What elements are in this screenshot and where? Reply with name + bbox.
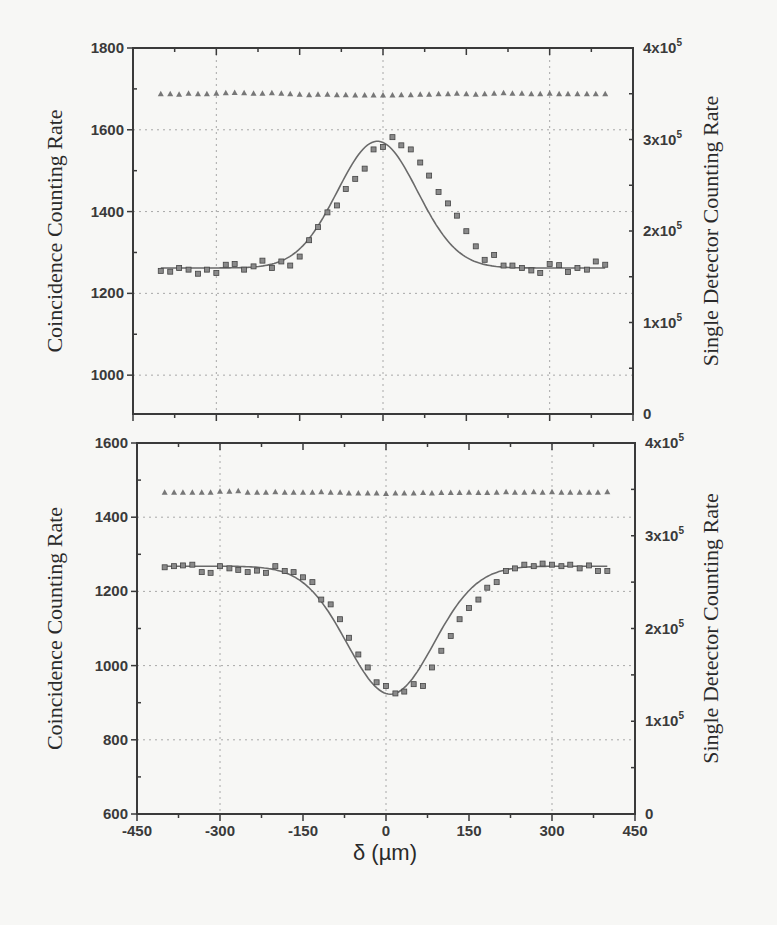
data-point-triangle: [436, 91, 442, 97]
data-point-triangle: [371, 92, 377, 98]
top-panel: 10001200140016001800 01x1052x1053x1054x1…: [42, 37, 723, 422]
data-point-square: [251, 264, 256, 269]
data-point-triangle: [213, 90, 219, 96]
data-point-triangle: [189, 489, 195, 495]
x-tick-label: 450: [622, 822, 647, 839]
bottom-right-axis-title: Single Detector Counting Rate: [698, 493, 723, 764]
data-point-triangle: [158, 91, 164, 97]
data-point-triangle: [186, 90, 192, 96]
data-point-square: [504, 568, 509, 573]
data-point-triangle: [540, 489, 546, 495]
data-point-square: [196, 271, 201, 276]
data-point-triangle: [199, 489, 205, 495]
data-point-triangle: [297, 91, 303, 97]
data-point-square: [485, 585, 490, 590]
data-point-square: [245, 570, 250, 575]
data-point-triangle: [408, 92, 414, 98]
data-point-square: [334, 203, 339, 208]
data-point-square: [384, 684, 389, 689]
data-point-triangle: [162, 489, 168, 495]
y-tick-label: 1200: [91, 284, 124, 301]
data-point-square: [476, 597, 481, 602]
data-point-triangle: [604, 489, 610, 495]
x-tick-label: 0: [382, 822, 390, 839]
data-point-triangle: [352, 92, 358, 98]
data-point-square: [411, 682, 416, 687]
data-point-triangle: [454, 90, 460, 96]
data-point-triangle: [565, 91, 571, 97]
data-point-square: [512, 566, 517, 571]
data-point-square: [371, 147, 376, 152]
data-point-triangle: [411, 490, 417, 496]
data-point-square: [519, 266, 524, 271]
data-point-triangle: [537, 91, 543, 97]
data-point-triangle: [491, 90, 497, 96]
data-point-triangle: [475, 490, 481, 496]
data-point-triangle: [567, 489, 573, 495]
data-point-triangle: [355, 490, 361, 496]
y2-tick-label: 3x105: [645, 525, 684, 544]
x-tick-label: 150: [456, 822, 481, 839]
data-point-square: [297, 254, 302, 259]
data-point-square: [492, 252, 497, 257]
data-point-square: [218, 564, 223, 569]
data-point-triangle: [318, 489, 324, 495]
data-point-square: [547, 261, 552, 266]
figure: 10001200140016001800 01x1052x1053x1054x1…: [0, 0, 777, 925]
data-point-square: [307, 238, 312, 243]
data-point-square: [208, 570, 213, 575]
data-point-triangle: [334, 92, 340, 98]
y2-tick-label: 2x105: [643, 220, 682, 239]
data-point-square: [288, 263, 293, 268]
data-point-square: [473, 244, 478, 249]
bottom-left-tick-labels: 6008001000120014001600: [95, 434, 128, 822]
y2-tick-label: 4x105: [643, 37, 682, 56]
data-point-square: [454, 213, 459, 218]
data-point-triangle: [362, 92, 368, 98]
data-point-triangle: [232, 89, 238, 95]
data-point-triangle: [389, 92, 395, 98]
data-point-triangle: [300, 489, 306, 495]
data-point-square: [214, 270, 219, 275]
y-tick-label: 1400: [95, 508, 128, 525]
data-point-triangle: [426, 91, 432, 97]
data-point-triangle: [241, 90, 247, 96]
data-point-triangle: [586, 489, 592, 495]
x-tick-label: -300: [205, 822, 235, 839]
data-point-square: [232, 261, 237, 266]
data-point-square: [408, 147, 413, 152]
y2-tick-label: 1x105: [645, 710, 684, 729]
data-point-square: [316, 225, 321, 230]
data-point-triangle: [558, 489, 564, 495]
bottom-left-axis-title: Coincidence Counting Rate: [42, 507, 67, 750]
data-point-square: [538, 270, 543, 275]
data-point-square: [482, 257, 487, 262]
top-left-axis-title: Coincidence Counting Rate: [42, 109, 67, 352]
data-point-triangle: [259, 90, 265, 96]
data-point-triangle: [324, 91, 330, 97]
data-point-triangle: [263, 489, 269, 495]
data-point-triangle: [438, 490, 444, 496]
data-point-triangle: [429, 490, 435, 496]
bottom-ticks: [131, 443, 635, 821]
top-ticks: [127, 48, 633, 421]
data-point-square: [236, 567, 241, 572]
data-point-square: [439, 648, 444, 653]
data-point-triangle: [445, 91, 451, 97]
data-point-triangle: [217, 488, 223, 494]
data-point-triangle: [501, 90, 507, 96]
data-point-square: [319, 597, 324, 602]
data-point-square: [399, 143, 404, 148]
data-point-square: [172, 564, 177, 569]
data-point-triangle: [254, 489, 260, 495]
data-point-square: [180, 563, 185, 568]
data-point-square: [291, 570, 296, 575]
data-point-triangle: [235, 488, 241, 494]
data-point-square: [365, 665, 370, 670]
data-point-triangle: [457, 490, 463, 496]
data-point-triangle: [380, 92, 386, 98]
data-point-square: [529, 268, 534, 273]
data-point-triangle: [282, 489, 288, 495]
data-point-triangle: [343, 92, 349, 98]
data-point-square: [310, 580, 315, 585]
